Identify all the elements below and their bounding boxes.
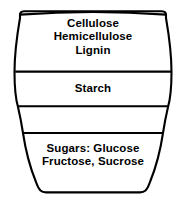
shield-diagram: Cellulose Hemicellulose Lignin Starch Su… — [0, 0, 186, 203]
shield-outline-svg — [0, 0, 186, 203]
shield-body-path — [15, 11, 172, 192]
